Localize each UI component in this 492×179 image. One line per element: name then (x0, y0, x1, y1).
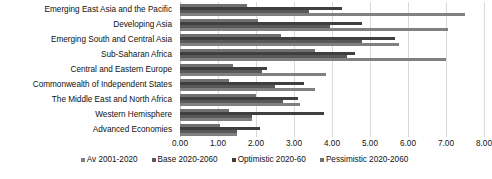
gridline (446, 2, 447, 137)
value-tick-label: 3.00 (286, 139, 302, 149)
value-tick-label: 7.00 (438, 139, 454, 149)
value-tick-label: 5.00 (362, 139, 378, 149)
gridline (408, 2, 409, 137)
bar (180, 28, 448, 31)
category-label: The Middle East and North Africa (52, 95, 172, 104)
category-axis: Emerging East Asia and the PacificDevelo… (0, 2, 176, 137)
category-label: Emerging East Asia and the Pacific (45, 5, 172, 14)
category-label: Central and Eastern Europe (71, 65, 173, 74)
bar (180, 73, 326, 76)
category-label: Commonwealth of Independent States (33, 80, 172, 89)
legend-label: Optimistic 2020-60 (238, 155, 306, 165)
bar (180, 88, 315, 91)
gridline (370, 2, 371, 137)
legend-item[interactable]: Av 2001-2020 (81, 155, 138, 165)
category-label: Sub-Saharan Africa (101, 50, 172, 59)
category-label: Western Hemisphere (95, 110, 172, 119)
category-label: Advanced Economies (93, 125, 172, 134)
plot-area (180, 2, 484, 137)
legend-item[interactable]: Base 2020-2060 (152, 155, 218, 165)
legend-swatch-icon (152, 158, 156, 162)
legend-swatch-icon (232, 158, 236, 162)
category-label: Emerging South and Central Asia (51, 35, 172, 44)
value-axis-ticks: 0.001.002.003.004.005.006.007.008.00 (180, 139, 484, 151)
gridline (484, 2, 485, 137)
legend-swatch-icon (320, 158, 324, 162)
legend-swatch-icon (81, 158, 85, 162)
value-tick-label: 2.00 (248, 139, 264, 149)
bar (180, 103, 300, 106)
value-tick-label: 4.00 (324, 139, 340, 149)
bar (180, 58, 446, 61)
bar (180, 133, 237, 136)
bar (180, 118, 252, 121)
legend-label: Pessimistic 2020-2060 (326, 155, 408, 165)
legend-label: Base 2020-2060 (158, 155, 218, 165)
legend-item[interactable]: Optimistic 2020-60 (232, 155, 306, 165)
value-tick-label: 6.00 (400, 139, 416, 149)
chart-legend: Av 2001-2020Base 2020-2060Optimistic 202… (0, 153, 489, 167)
value-tick-label: 0.00 (172, 139, 188, 149)
legend-item[interactable]: Pessimistic 2020-2060 (320, 155, 408, 165)
bar (180, 43, 399, 46)
bar (180, 13, 465, 16)
value-tick-label: 8.00 (476, 139, 492, 149)
category-label: Developing Asia (113, 20, 172, 29)
legend-label: Av 2001-2020 (87, 155, 138, 165)
value-tick-label: 1.00 (210, 139, 226, 149)
